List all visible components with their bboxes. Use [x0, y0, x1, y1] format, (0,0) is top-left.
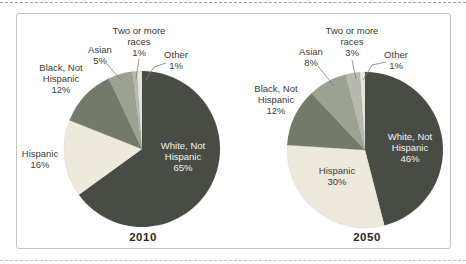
- label-2010-hispanic: Hispanic 16%: [22, 148, 58, 170]
- page-rule-bottom: [0, 260, 466, 261]
- label-2010-two-or-more-races: Two or more races 1%: [113, 25, 166, 58]
- label-2010-black-not-hispanic: Black, Not Hispanic 12%: [39, 62, 82, 95]
- label-2050-two-or-more-races: Two or more races 3%: [326, 25, 379, 58]
- label-2010-other: Other 1%: [164, 49, 188, 71]
- label-2050-asian: Asian 8%: [299, 46, 323, 68]
- label-2050-black-not-hispanic: Black, Not Hispanic 12%: [254, 83, 297, 116]
- label-2010-white-not-hispanic: White, Not Hispanic 65%: [161, 140, 205, 173]
- figure-page: Two or more races 1% Asian 5% Other 1% B…: [0, 0, 466, 264]
- label-2010-asian: Asian 5%: [88, 44, 112, 66]
- year-label-2010: 2010: [129, 231, 157, 243]
- label-2050-white-not-hispanic: White, Not Hispanic 46%: [388, 131, 432, 164]
- year-label-2050: 2050: [353, 231, 381, 243]
- label-2050-hispanic: Hispanic 30%: [319, 165, 355, 187]
- label-2050-other: Other 1%: [384, 49, 408, 71]
